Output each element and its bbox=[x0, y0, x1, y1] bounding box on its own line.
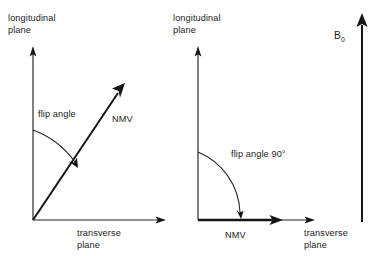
right-diagram-group: longitudinal plane flip angle 90° NMV tr… bbox=[173, 13, 348, 250]
left-nmv-vector bbox=[33, 83, 125, 220]
right-longitudinal-label-line1: longitudinal bbox=[173, 13, 221, 23]
left-nmv-label: NMV bbox=[112, 114, 133, 124]
left-flip-angle-label: flip angle bbox=[38, 109, 76, 119]
b0-arrow bbox=[356, 13, 367, 222]
left-longitudinal-label-line1: longitudinal bbox=[8, 13, 56, 23]
left-transverse-label-line2: plane bbox=[77, 240, 100, 250]
right-transverse-label-line2: plane bbox=[304, 240, 327, 250]
right-nmv-label: NMV bbox=[225, 230, 246, 240]
left-flip-angle-arc bbox=[33, 130, 78, 168]
b0-subscript: 0 bbox=[341, 36, 345, 43]
right-flip-angle-arc bbox=[198, 152, 244, 219]
right-transverse-label-line1: transverse bbox=[304, 228, 348, 238]
left-diagram-group: longitudinal plane flip angle NMV transv… bbox=[8, 13, 166, 250]
b0-field-group: B0 bbox=[334, 13, 368, 222]
nmv-flip-angle-diagram: longitudinal plane flip angle NMV transv… bbox=[0, 0, 385, 256]
right-flip-angle-label: flip angle 90° bbox=[231, 149, 286, 159]
right-longitudinal-label-line2: plane bbox=[173, 25, 196, 35]
left-transverse-label-line1: transverse bbox=[77, 228, 121, 238]
figure-canvas: longitudinal plane flip angle NMV transv… bbox=[0, 0, 385, 256]
b0-label: B0 bbox=[334, 30, 345, 43]
right-longitudinal-axis bbox=[195, 46, 202, 220]
left-longitudinal-label-line2: plane bbox=[8, 25, 31, 35]
left-longitudinal-axis bbox=[30, 46, 37, 220]
left-transverse-axis bbox=[33, 217, 166, 224]
